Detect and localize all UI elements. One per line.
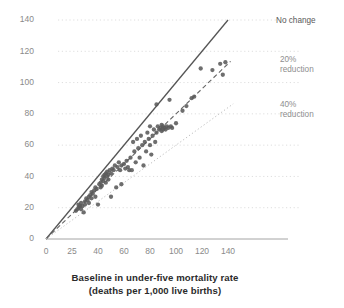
data-point (145, 130, 149, 134)
data-point (109, 195, 113, 199)
x-tick-label-120: 120 (195, 246, 209, 256)
data-point (150, 134, 154, 138)
data-point (223, 60, 227, 64)
annotation-20-reduction-line1: 20% (280, 55, 296, 64)
data-point (199, 66, 203, 70)
x-axis-title-line2: (deaths per 1,000 live births) (0, 284, 310, 297)
y-axis-tick-labels: 020406080100120140 (20, 14, 34, 243)
data-point (154, 102, 158, 106)
x-tick-label-80: 80 (145, 246, 155, 256)
data-point (96, 202, 100, 206)
data-point (119, 182, 123, 186)
data-point (111, 168, 115, 172)
annotation-40-reduction-line1: 40% (280, 100, 296, 109)
y-tick-label-40: 40 (25, 171, 35, 181)
y-tick-label-120: 120 (20, 46, 34, 56)
data-point (95, 187, 99, 191)
x-axis-title-line1: Baseline in under-five mortality rate (72, 272, 239, 283)
data-point (210, 68, 214, 72)
x-tick-label-100: 100 (169, 246, 183, 256)
y-tick-label-0: 0 (29, 233, 34, 243)
data-point (147, 137, 151, 141)
data-point (218, 62, 222, 66)
data-point (128, 156, 132, 160)
x-axis-tick-labels: 025406080100120140 (44, 246, 236, 256)
data-point (106, 177, 110, 181)
data-points-group (74, 60, 228, 214)
data-point (131, 140, 135, 144)
chart-container: 020406080100120140 025406080100120140 No… (0, 0, 344, 308)
x-tick-label-0: 0 (44, 246, 49, 256)
x-tick-label-20: 25 (67, 246, 77, 256)
y-tick-label-140: 140 (20, 14, 34, 24)
data-point (136, 146, 140, 150)
data-point (170, 126, 174, 130)
x-axis-title: Baseline in under-five mortality rate (d… (0, 271, 310, 297)
annotation-20-reduction-line2: reduction (280, 65, 314, 74)
data-point (137, 156, 141, 160)
data-point (148, 124, 152, 128)
annotation-no-change: No change (276, 16, 316, 25)
x-tick-label-40: 40 (93, 246, 103, 256)
data-point (180, 109, 184, 113)
y-tick-label-60: 60 (25, 139, 35, 149)
annotation-40-reduction-line2: reduction (280, 110, 314, 119)
data-point (89, 196, 93, 200)
data-point (124, 159, 128, 163)
data-point (100, 184, 104, 188)
data-point (83, 202, 87, 206)
data-point (153, 140, 157, 144)
data-point (192, 95, 196, 99)
data-point (143, 140, 147, 144)
data-point (167, 98, 171, 102)
data-point (141, 163, 145, 167)
data-point (87, 201, 91, 205)
data-point (118, 168, 122, 172)
data-point (130, 168, 134, 172)
data-point (114, 185, 118, 189)
reference-line-no-change (46, 20, 228, 239)
x-tick-label-60: 60 (119, 246, 129, 256)
data-point (82, 210, 86, 214)
data-point (184, 104, 188, 108)
data-point (148, 143, 152, 147)
data-point (149, 152, 153, 156)
data-point (132, 149, 136, 153)
data-point (144, 149, 148, 153)
reference-lines-group (46, 20, 233, 239)
data-point (93, 195, 97, 199)
data-point (174, 121, 178, 125)
data-point (134, 160, 138, 164)
data-point (221, 73, 225, 77)
x-tick-label-140: 140 (221, 246, 235, 256)
reference-line-reduction-40 (46, 104, 233, 239)
y-tick-label-100: 100 (20, 77, 34, 87)
y-tick-label-20: 20 (25, 202, 35, 212)
scatter-plot-svg: 020406080100120140 025406080100120140 No… (0, 0, 344, 308)
y-tick-label-80: 80 (25, 108, 35, 118)
data-point (135, 137, 139, 141)
gridlines-group (58, 20, 300, 208)
data-point (139, 134, 143, 138)
